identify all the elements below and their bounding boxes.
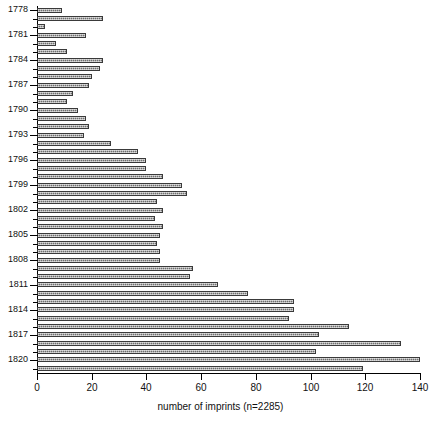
y-axis-tick-label: 1817 — [0, 330, 28, 339]
bar — [37, 66, 100, 71]
y-axis-tick — [30, 110, 38, 111]
bar — [37, 83, 89, 88]
bar-row — [37, 314, 420, 322]
y-axis-tick — [33, 244, 38, 245]
bar — [37, 174, 163, 179]
bar — [37, 141, 111, 146]
bar — [37, 299, 294, 304]
x-axis-tick — [201, 373, 202, 380]
bar-row — [37, 289, 420, 297]
y-axis-tick-label: 1802 — [0, 205, 28, 214]
bar — [37, 191, 187, 196]
plot-area — [37, 6, 420, 373]
bar — [37, 33, 86, 38]
y-axis-tick — [30, 185, 38, 186]
bar — [37, 158, 146, 163]
bar-row — [37, 14, 420, 22]
bar — [37, 91, 73, 96]
y-axis-tick — [33, 327, 38, 328]
x-axis-tick-label: 60 — [195, 382, 206, 393]
bar — [37, 224, 163, 229]
bar — [37, 183, 182, 188]
bar — [37, 316, 289, 321]
bar — [37, 332, 319, 337]
bar-row — [37, 331, 420, 339]
bar — [37, 357, 420, 362]
bar-row — [37, 123, 420, 131]
bar-row — [37, 181, 420, 189]
bar-rows — [37, 6, 420, 373]
bar — [37, 341, 401, 346]
bar — [37, 366, 363, 371]
y-axis-tick-label: 1778 — [0, 5, 28, 14]
bar — [37, 249, 160, 254]
y-axis-tick — [33, 27, 38, 28]
bar — [37, 233, 160, 238]
bar-row — [37, 256, 420, 264]
x-axis-tick-label: 140 — [412, 382, 429, 393]
bar — [37, 133, 84, 138]
y-axis-tick — [30, 135, 38, 136]
bar — [37, 307, 294, 312]
y-axis-tick — [33, 102, 38, 103]
y-axis-tick — [30, 335, 38, 336]
y-axis-tick — [33, 169, 38, 170]
y-axis-tick-label: 1787 — [0, 80, 28, 89]
bar — [37, 16, 103, 21]
bar — [37, 241, 157, 246]
bar-row — [37, 322, 420, 330]
bar — [37, 124, 89, 129]
y-axis-tick — [33, 19, 38, 20]
x-axis-tick-label: 40 — [140, 382, 151, 393]
y-axis-tick — [30, 310, 38, 311]
x-axis-tick-label: 100 — [303, 382, 320, 393]
bar-row — [37, 106, 420, 114]
y-axis-tick-label: 1820 — [0, 355, 28, 364]
bar-row — [37, 156, 420, 164]
bar-row — [37, 306, 420, 314]
y-axis-tick — [33, 252, 38, 253]
x-axis-tick — [37, 373, 38, 380]
y-axis-tick — [33, 52, 38, 53]
y-axis-tick-label: 1784 — [0, 55, 28, 64]
y-axis-tick — [33, 177, 38, 178]
bar-row — [37, 356, 420, 364]
bar-row — [37, 31, 420, 39]
bar-row — [37, 248, 420, 256]
y-axis-tick — [33, 277, 38, 278]
y-axis-tick — [30, 285, 38, 286]
x-axis-line — [37, 373, 421, 374]
x-axis-tick-label: 20 — [86, 382, 97, 393]
bar — [37, 208, 163, 213]
y-axis-tick-label: 1811 — [0, 280, 28, 289]
y-axis-tick — [33, 69, 38, 70]
bar — [37, 74, 92, 79]
bar-row — [37, 48, 420, 56]
bar-row — [37, 6, 420, 14]
x-axis-tick-label: 120 — [357, 382, 374, 393]
bar-row — [37, 239, 420, 247]
y-axis-tick — [30, 160, 38, 161]
y-axis-tick — [33, 127, 38, 128]
bar — [37, 274, 190, 279]
bar-row — [37, 231, 420, 239]
bar — [37, 258, 160, 263]
bar-row — [37, 164, 420, 172]
y-axis-tick — [33, 94, 38, 95]
x-axis-tick — [92, 373, 93, 380]
y-axis-tick — [30, 60, 38, 61]
y-axis-tick — [33, 294, 38, 295]
bar-row — [37, 23, 420, 31]
y-axis-tick — [33, 302, 38, 303]
y-axis-tick — [33, 319, 38, 320]
x-axis-tick — [146, 373, 147, 380]
bar-row — [37, 189, 420, 197]
y-axis-tick-label: 1781 — [0, 30, 28, 39]
bar — [37, 24, 45, 29]
bar-row — [37, 364, 420, 372]
bar-chart: 1778178117841787179017931796179918021805… — [0, 0, 441, 424]
bar — [37, 266, 193, 271]
y-axis-tick-label: 1796 — [0, 155, 28, 164]
y-axis-tick — [33, 202, 38, 203]
bar-row — [37, 148, 420, 156]
